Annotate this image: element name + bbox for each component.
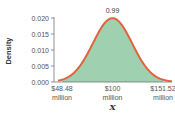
x-tick-label: $100: [105, 85, 121, 92]
density-chart: 0.0000.0050.0100.0150.020 $48.48million$…: [0, 0, 175, 120]
y-tick-label: 0.010: [31, 47, 49, 54]
x-tick-label-unit: million: [153, 94, 173, 101]
x-tick-label-unit: million: [103, 94, 123, 101]
x-axis-title: X: [108, 102, 116, 112]
y-tick-label: 0.020: [31, 15, 49, 22]
y-axis-title: Density: [4, 37, 13, 65]
x-ticks: $48.48million$100million$151.52million: [51, 85, 175, 101]
x-tick-label-unit: million: [52, 94, 72, 101]
plot-area: 0.0000.0050.0100.0150.020 $48.48million$…: [31, 15, 175, 102]
y-tick-label: 0.015: [31, 31, 49, 38]
x-tick-label: $151.52: [150, 85, 175, 92]
probability-annotation: 0.99: [106, 7, 120, 14]
x-tick-label: $48.48: [51, 85, 73, 92]
y-tick-label: 0.005: [31, 63, 49, 70]
shaded-probability-area: [62, 18, 163, 82]
y-tick-label: 0.000: [31, 79, 49, 86]
y-ticks: 0.0000.0050.0100.0150.020: [31, 15, 54, 86]
